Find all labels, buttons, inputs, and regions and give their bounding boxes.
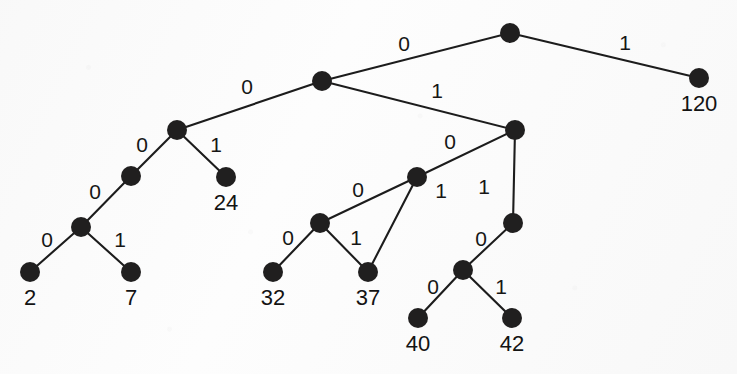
tree-edge <box>322 81 515 130</box>
tree-edge <box>30 227 81 272</box>
edge-bit-label: 1 <box>495 276 507 297</box>
tree-edge <box>368 177 417 272</box>
tree-edge <box>510 33 699 78</box>
edge-bit-label: 1 <box>350 227 362 248</box>
edge-bit-label: 1 <box>431 80 443 101</box>
tree-internal-node <box>503 213 523 233</box>
edge-bit-label: 0 <box>282 227 294 248</box>
edge-bit-label: 1 <box>435 180 447 201</box>
edge-bit-label: 1 <box>210 134 222 155</box>
tree-edge <box>463 223 513 270</box>
tree-edge <box>273 223 320 272</box>
tree-internal-node <box>505 120 525 140</box>
edge-bit-label: 1 <box>478 176 490 197</box>
tree-leaf-node <box>358 262 378 282</box>
edge-bit-label: 0 <box>241 76 253 97</box>
tree-leaf-node <box>408 308 428 328</box>
tree-leaf-node <box>216 167 236 187</box>
tree-internal-node <box>453 260 473 280</box>
tree-leaf-node <box>20 262 40 282</box>
leaf-value-label: 40 <box>406 333 430 355</box>
tree-canvas <box>0 0 737 374</box>
edge-bit-label: 0 <box>398 33 410 54</box>
leaf-value-label: 24 <box>214 192 238 214</box>
leaf-value-label: 32 <box>261 287 285 309</box>
tree-leaf-node <box>689 68 709 88</box>
tree-leaf-node <box>502 308 522 328</box>
edge-bit-label: 0 <box>444 131 456 152</box>
binary-tree-figure: 010101001010101001272432374042120 <box>0 0 737 374</box>
tree-edge <box>322 33 510 81</box>
node-layer <box>20 23 709 328</box>
leaf-value-label: 120 <box>681 93 718 115</box>
edge-bit-label: 0 <box>475 228 487 249</box>
tree-internal-node <box>121 166 141 186</box>
tree-internal-node <box>71 217 91 237</box>
tree-internal-node <box>167 120 187 140</box>
edge-bit-label: 0 <box>136 134 148 155</box>
leaf-value-label: 42 <box>500 333 524 355</box>
edge-bit-label: 0 <box>89 181 101 202</box>
tree-internal-node <box>407 167 427 187</box>
edge-bit-label: 0 <box>427 276 439 297</box>
tree-leaf-node <box>263 262 283 282</box>
tree-internal-node <box>500 23 520 43</box>
tree-edge <box>320 177 417 223</box>
edge-bit-label: 1 <box>619 32 631 53</box>
tree-internal-node <box>312 71 332 91</box>
edge-bit-label: 1 <box>114 229 126 250</box>
leaf-value-label: 7 <box>125 287 137 309</box>
tree-edge <box>417 130 515 177</box>
edge-bit-label: 0 <box>352 179 364 200</box>
tree-edge <box>513 130 515 223</box>
leaf-value-label: 37 <box>356 287 380 309</box>
leaf-value-label: 2 <box>24 287 36 309</box>
edge-bit-label: 0 <box>41 229 53 250</box>
tree-leaf-node <box>121 262 141 282</box>
tree-internal-node <box>310 213 330 233</box>
